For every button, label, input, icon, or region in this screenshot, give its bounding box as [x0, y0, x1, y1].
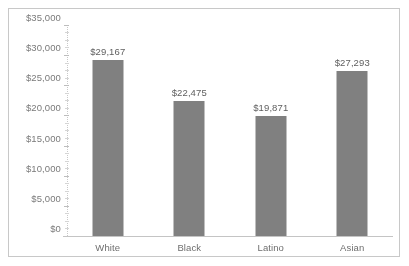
x-axis-category-label: White [95, 242, 120, 253]
bar-value-label: $19,871 [253, 102, 288, 113]
bar[interactable] [92, 60, 123, 236]
x-axis-line [63, 236, 393, 237]
bar[interactable] [255, 116, 286, 236]
bar[interactable] [174, 101, 205, 236]
bar-chart-figure: $35,000 $30,000 $25,000 $20,000 $15,000 … [8, 8, 400, 257]
plot-area: $29,167 White $22,475 Black $19,871 Lati… [67, 17, 393, 236]
bar-value-label: $27,293 [335, 57, 370, 68]
y-axis-tick-label: $30,000 [26, 42, 61, 53]
bar-value-label: $22,475 [172, 87, 207, 98]
y-axis-tick-label: $10,000 [26, 162, 61, 173]
bar-value-label: $29,167 [90, 46, 125, 57]
x-axis-category-label: Asian [340, 242, 364, 253]
bar-group-latino: $19,871 Latino [230, 17, 312, 236]
x-axis-category-label: Latino [258, 242, 284, 253]
bar-group-asian: $27,293 Asian [312, 17, 394, 236]
y-axis-tick-label: $15,000 [26, 132, 61, 143]
y-axis-tick-label: $5,000 [31, 192, 61, 203]
x-axis-category-label: Black [177, 242, 201, 253]
y-axis-tick-label: $20,000 [26, 102, 61, 113]
bar-group-white: $29,167 White [67, 17, 149, 236]
bar-group-black: $22,475 Black [149, 17, 231, 236]
y-axis-tick-label: $35,000 [26, 12, 61, 23]
bar[interactable] [337, 71, 368, 236]
y-axis-tick-label: $0 [50, 223, 61, 234]
y-axis-tick-labels: $35,000 $30,000 $25,000 $20,000 $15,000 … [9, 17, 61, 228]
y-axis-tick-label: $25,000 [26, 72, 61, 83]
